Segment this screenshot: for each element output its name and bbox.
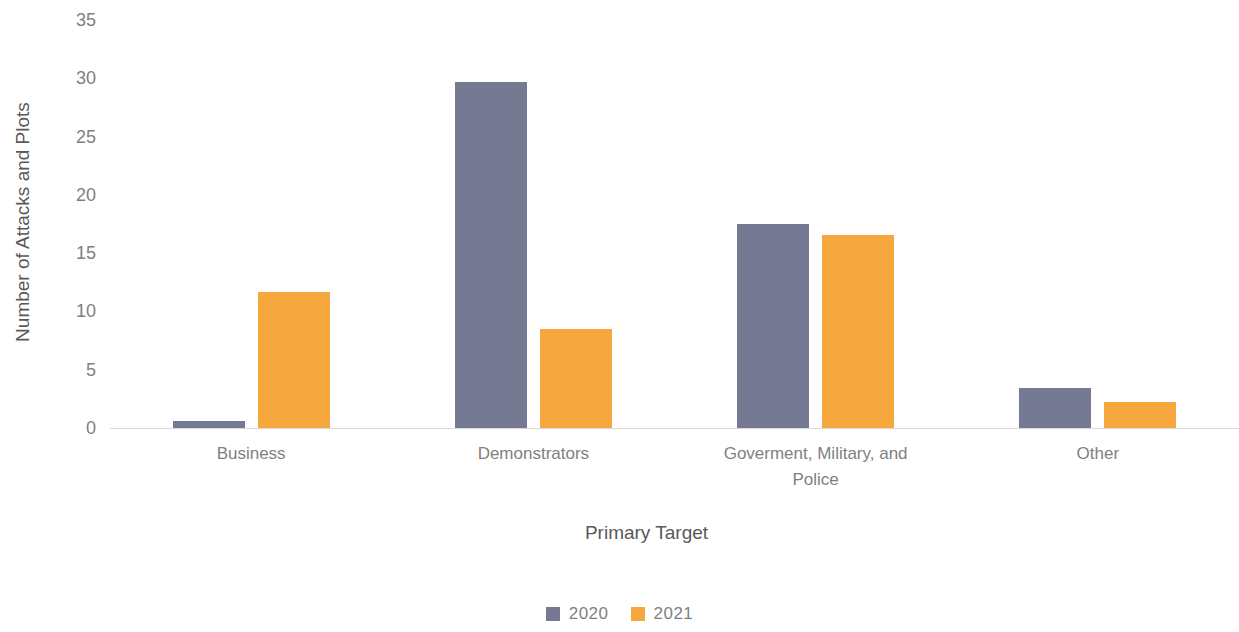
x-axis-category-label-2: Goverment, Military, and Police [666, 441, 966, 493]
x-axis-title-text: Primary Target [585, 522, 708, 543]
x-axis-line [110, 428, 1239, 429]
legend-label-2021: 2021 [654, 604, 694, 624]
legend-swatch-icon-2021 [631, 607, 645, 621]
y-axis-tick-5: 5 [48, 361, 96, 379]
bar-2021-1 [540, 329, 612, 428]
y-axis-tick-15: 15 [48, 244, 96, 262]
legend-label-2020: 2020 [569, 604, 609, 624]
x-axis-category-label-3: Other [948, 441, 1239, 467]
bar-2021-3 [1104, 402, 1176, 428]
plot-area: 05101520253035 [110, 20, 1239, 428]
y-axis-tick-25: 25 [48, 128, 96, 146]
bar-2021-2 [822, 235, 894, 429]
bar-2020-0 [173, 421, 245, 428]
y-axis-tick-20: 20 [48, 186, 96, 204]
bar-2020-1 [455, 82, 527, 428]
y-axis-tick-35: 35 [48, 11, 96, 29]
legend-item-2020[interactable]: 2020 [546, 604, 609, 624]
legend-item-2021[interactable]: 2021 [631, 604, 694, 624]
x-axis-category-label-1: Demonstrators [383, 441, 683, 467]
bar-2021-0 [258, 292, 330, 428]
bar-2020-3 [1019, 388, 1091, 428]
x-axis-title: Primary Target [0, 522, 1239, 544]
y-axis-tick-0: 0 [48, 419, 96, 437]
bar-chart: Number of Attacks and Plots 051015202530… [0, 0, 1239, 632]
chart-legend: 20202021 [0, 604, 1239, 624]
y-axis-tick-30: 30 [48, 69, 96, 87]
bar-2020-2 [737, 224, 809, 428]
y-axis-tick-10: 10 [48, 302, 96, 320]
legend-swatch-icon-2020 [546, 607, 560, 621]
y-axis-title: Number of Attacks and Plots [8, 7, 38, 437]
x-axis-category-label-0: Business [101, 441, 401, 467]
